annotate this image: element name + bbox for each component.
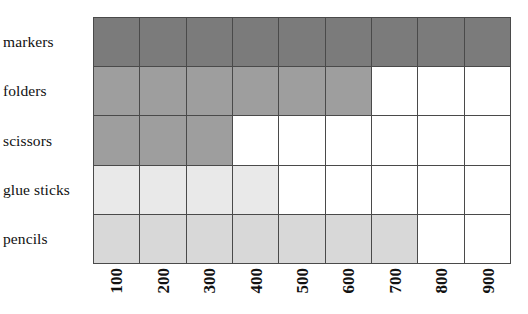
x-tick-500: 500 <box>279 266 325 314</box>
x-tick-400: 400 <box>232 266 278 314</box>
bar-segment-filled <box>187 166 233 214</box>
grid-cell-empty <box>326 116 372 164</box>
x-tick-label: 500 <box>293 268 310 294</box>
bar-segment-filled <box>326 215 372 263</box>
x-tick-label: 100 <box>108 268 125 294</box>
x-tick-label: 200 <box>154 268 171 294</box>
bar-segment-filled <box>233 166 279 214</box>
category-label-glue-sticks: glue sticks <box>0 165 93 214</box>
x-tick-label: 400 <box>247 268 264 294</box>
x-tick-label: 700 <box>386 268 403 294</box>
bar-segment-filled <box>94 116 140 164</box>
category-label-markers: markers <box>0 17 93 66</box>
grid-cell-empty <box>279 116 325 164</box>
grid-cell-empty <box>326 166 372 214</box>
bar-segment-filled <box>94 18 140 66</box>
grid-cell-empty <box>418 215 464 263</box>
bar-segment-filled <box>279 215 325 263</box>
bar-segment-filled <box>465 18 511 66</box>
x-tick-600: 600 <box>325 266 371 314</box>
grid-cell-empty <box>372 116 418 164</box>
grid-cell-empty <box>233 116 279 164</box>
grid-cell-empty <box>418 116 464 164</box>
grid-cell-empty <box>465 116 511 164</box>
bar-segment-filled <box>233 67 279 115</box>
grid-cell-empty <box>418 166 464 214</box>
plot-area <box>93 17 511 264</box>
grid-cell-empty <box>279 166 325 214</box>
grid-cell-empty <box>465 166 511 214</box>
grid-cell-empty <box>372 67 418 115</box>
grid-cell-empty <box>465 215 511 263</box>
bar-segment-filled <box>187 215 233 263</box>
x-tick-900: 900 <box>465 266 511 314</box>
bar-segment-filled <box>279 67 325 115</box>
bar-segment-filled <box>233 18 279 66</box>
bar-segment-filled <box>326 18 372 66</box>
x-tick-label: 600 <box>340 268 357 294</box>
x-tick-800: 800 <box>418 266 464 314</box>
bar-segment-filled <box>140 166 186 214</box>
category-label-pencils: pencils <box>0 215 93 264</box>
bar-segment-filled <box>140 18 186 66</box>
bar-row-pencils <box>94 215 511 264</box>
bar-segment-filled <box>187 67 233 115</box>
bar-segment-filled <box>187 18 233 66</box>
bar-segment-filled <box>94 67 140 115</box>
bar-segment-filled <box>187 116 233 164</box>
bar-segment-filled <box>140 116 186 164</box>
bar-segment-filled <box>418 18 464 66</box>
bar-segment-filled <box>279 18 325 66</box>
bar-segment-filled <box>233 215 279 263</box>
bar-segment-filled <box>140 67 186 115</box>
bar-segment-filled <box>94 215 140 263</box>
x-tick-label: 300 <box>201 268 218 294</box>
bar-row-folders <box>94 67 511 116</box>
bar-segment-filled <box>140 215 186 263</box>
x-tick-label: 800 <box>433 268 450 294</box>
bar-segment-filled <box>372 18 418 66</box>
bar-row-glue-sticks <box>94 166 511 215</box>
bar-row-markers <box>94 18 511 67</box>
category-label-scissors: scissors <box>0 116 93 165</box>
bar-segment-filled <box>94 166 140 214</box>
category-label-folders: folders <box>0 66 93 115</box>
category-axis-labels: markers folders scissors glue sticks pen… <box>0 17 93 264</box>
value-axis-ticks: 100200300400500600700800900 <box>93 266 511 314</box>
bar-segment-filled <box>326 67 372 115</box>
x-tick-100: 100 <box>93 266 139 314</box>
x-tick-700: 700 <box>372 266 418 314</box>
bar-chart: markers folders scissors glue sticks pen… <box>0 0 528 314</box>
x-tick-label: 900 <box>479 268 496 294</box>
grid-cell-empty <box>465 67 511 115</box>
x-tick-200: 200 <box>139 266 185 314</box>
x-tick-300: 300 <box>186 266 232 314</box>
bar-row-scissors <box>94 116 511 165</box>
bar-segment-filled <box>372 215 418 263</box>
grid-cell-empty <box>372 166 418 214</box>
grid-cell-empty <box>418 67 464 115</box>
